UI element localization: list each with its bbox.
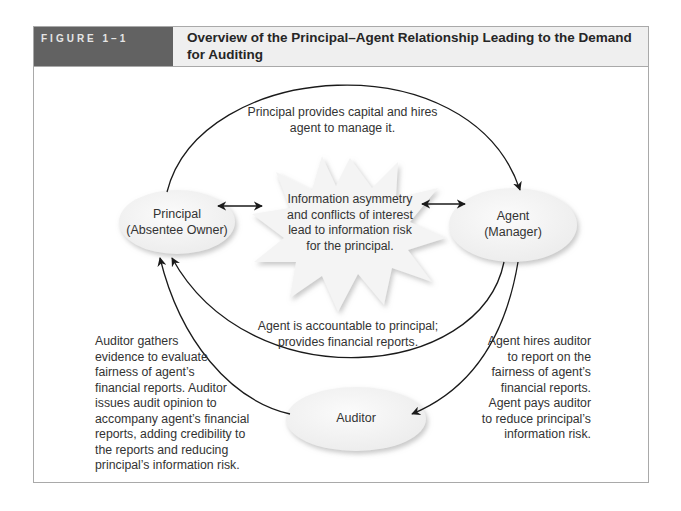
burst-line: lead to information risk <box>270 223 430 239</box>
annotation-line: Agent pays auditor <box>468 396 591 412</box>
annotation-line: information risk. <box>468 427 591 443</box>
principal-sublabel: (Absentee Owner) <box>119 222 235 238</box>
annotation-right: Agent hires auditor to report on the fai… <box>468 334 591 443</box>
auditor-label: Auditor <box>296 410 416 426</box>
annotation-line: financial reports. Auditor <box>95 381 265 397</box>
burst-line: Information asymmetry <box>270 192 430 208</box>
annotation-line: Auditor gathers <box>95 334 265 350</box>
annotation-line: evidence to evaluate <box>95 350 265 366</box>
annotation-line: financial reports. <box>468 381 591 397</box>
annotation-line: agent to manage it. <box>240 121 445 137</box>
annotation-middle: Agent is accountable to principal; provi… <box>248 319 448 350</box>
agent-label: Agent <box>458 208 568 224</box>
burst-line: and conflicts of interest <box>270 208 430 224</box>
burst-line: for the principal. <box>270 239 430 255</box>
principal-label: Principal <box>119 206 235 222</box>
annotation-line: reports, adding credibility to <box>95 427 265 443</box>
annotation-line: provides financial reports. <box>248 335 448 351</box>
annotation-left: Auditor gathers evidence to evaluate fai… <box>95 334 265 474</box>
annotation-line: principal’s information risk. <box>95 458 265 474</box>
center-burst-text: Information asymmetry and conflicts of i… <box>270 192 430 254</box>
annotation-line: to report on the <box>468 350 591 366</box>
annotation-line: fairness of agent’s <box>468 365 591 381</box>
annotation-line: Agent hires auditor <box>468 334 591 350</box>
agent-sublabel: (Manager) <box>458 224 568 240</box>
annotation-line: to reduce principal’s <box>468 412 591 428</box>
annotation-line: Agent is accountable to principal; <box>248 319 448 335</box>
annotation-line: Principal provides capital and hires <box>240 105 445 121</box>
principal-node: Principal (Absentee Owner) <box>119 206 235 238</box>
annotation-line: the reports and reducing <box>95 443 265 459</box>
annotation-line: fairness of agent’s <box>95 365 265 381</box>
annotation-line: issues audit opinion to <box>95 396 265 412</box>
auditor-node: Auditor <box>296 410 416 426</box>
annotation-top: Principal provides capital and hires age… <box>240 105 445 136</box>
annotation-line: accompany agent’s financial <box>95 412 265 428</box>
agent-node: Agent (Manager) <box>458 208 568 240</box>
